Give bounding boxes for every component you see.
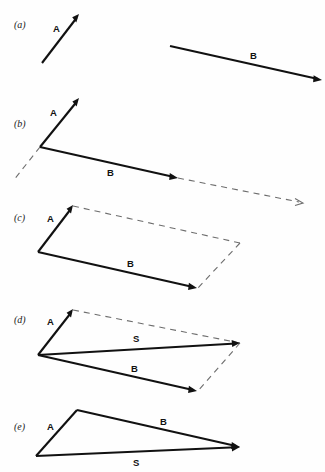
vector-s-shaft xyxy=(36,447,236,456)
panel-c: (c) A B xyxy=(14,205,240,290)
vector-b-head xyxy=(188,386,197,393)
vector-a-label: A xyxy=(50,107,57,118)
vector-b-arrow xyxy=(170,46,322,82)
vector-s-label: S xyxy=(133,333,139,344)
panel-b: (b) A B xyxy=(13,98,303,206)
vector-a-shaft xyxy=(36,410,77,456)
panel-label-d: (d) xyxy=(14,314,26,326)
vector-b-label: B xyxy=(107,167,114,178)
vector-b-head xyxy=(188,283,197,290)
vector-a-shaft xyxy=(38,313,71,355)
parallelogram-side-top-dashed xyxy=(73,310,240,343)
panel-e: (e) A B S xyxy=(14,410,240,468)
parallelogram-side-right-dashed xyxy=(197,343,240,392)
vector-a-shaft xyxy=(38,209,71,252)
panel-label-b: (b) xyxy=(14,118,26,130)
vector-b-extension-dashed xyxy=(178,178,303,206)
vector-b-label: B xyxy=(127,258,134,269)
vector-a-label: A xyxy=(47,421,54,432)
vector-b-head xyxy=(169,173,178,180)
panel-label-e: (e) xyxy=(14,421,26,433)
vector-s-head xyxy=(232,340,240,347)
vector-s-shaft xyxy=(38,344,236,356)
vector-addition-figure: (a) A B (b) A B (c) xyxy=(0,0,325,472)
vector-b-arrow xyxy=(38,252,197,290)
vector-b-label: B xyxy=(160,416,167,427)
panel-label-a: (a) xyxy=(14,19,26,31)
vector-a-extension-dashed xyxy=(13,147,40,181)
vector-a-arrow xyxy=(42,14,79,63)
vector-b-arrow xyxy=(77,410,240,449)
vector-b-shaft xyxy=(170,46,318,79)
vector-b-head xyxy=(313,75,322,82)
vector-b-extension-shaft xyxy=(178,178,299,202)
vector-a-label: A xyxy=(47,316,54,327)
vector-b-label: B xyxy=(250,50,257,61)
vector-b-shaft xyxy=(38,252,193,287)
vector-s-arrow xyxy=(36,444,240,456)
figure-canvas: (a) A B (b) A B (c) xyxy=(0,0,325,472)
vector-a-label: A xyxy=(47,213,54,224)
vector-s-label: S xyxy=(133,457,139,468)
vector-a-arrow xyxy=(40,98,79,147)
parallelogram-side-top-dashed xyxy=(73,206,240,243)
vector-b-label: B xyxy=(131,363,138,374)
vector-a-label: A xyxy=(53,23,60,34)
vector-a-arrow xyxy=(38,205,73,252)
panel-a: (a) A B xyxy=(14,14,322,82)
vector-a-shaft xyxy=(40,102,77,147)
panel-label-c: (c) xyxy=(14,212,26,224)
vector-b-shaft xyxy=(77,410,236,446)
panel-d: (d) A S B xyxy=(14,309,240,393)
parallelogram-side-right-dashed xyxy=(197,243,240,289)
vector-b-shaft xyxy=(38,355,193,390)
vector-a-arrow xyxy=(38,309,73,355)
vector-b-arrow xyxy=(38,355,197,393)
